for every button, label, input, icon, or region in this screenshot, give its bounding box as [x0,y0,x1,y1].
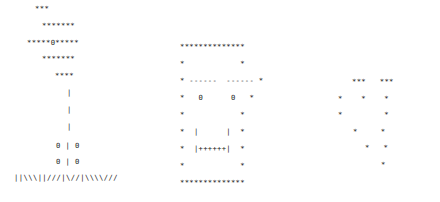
tree-line: *** [35,5,49,12]
tree-line: 0 | 0 [56,158,80,165]
face-line: ************** [180,43,245,50]
face-line: * 0 0 * [180,94,254,101]
heart-line: * * * [338,95,389,102]
heart-line: *** *** [352,78,394,85]
face-line: * ------ ------ * [180,77,263,84]
tree-line: ******* [42,22,75,29]
face-line: * * [180,111,245,118]
heart-line: * * [338,111,389,118]
tree-line: *****0***** [27,39,79,46]
heart-line: * * [353,128,385,135]
face-line: * * [180,60,245,67]
heart-line: * * [365,144,388,151]
face-line: ************** [180,179,245,186]
faint-caption [0,197,440,202]
face-line: * * [180,162,245,169]
face-line: * | | * [180,128,245,135]
tree-line: 0 | 0 [56,142,80,149]
tree-line: ||\\\||///|\//|\\\\/// [14,174,118,181]
face-line: * |++++++| * [180,145,245,152]
tree-line: **** [55,72,74,79]
tree-line: ******* [42,55,75,62]
tree-line: | [67,106,72,113]
tree-line: | [67,89,72,96]
tree-line: | [67,123,72,130]
heart-line: * [381,161,386,168]
